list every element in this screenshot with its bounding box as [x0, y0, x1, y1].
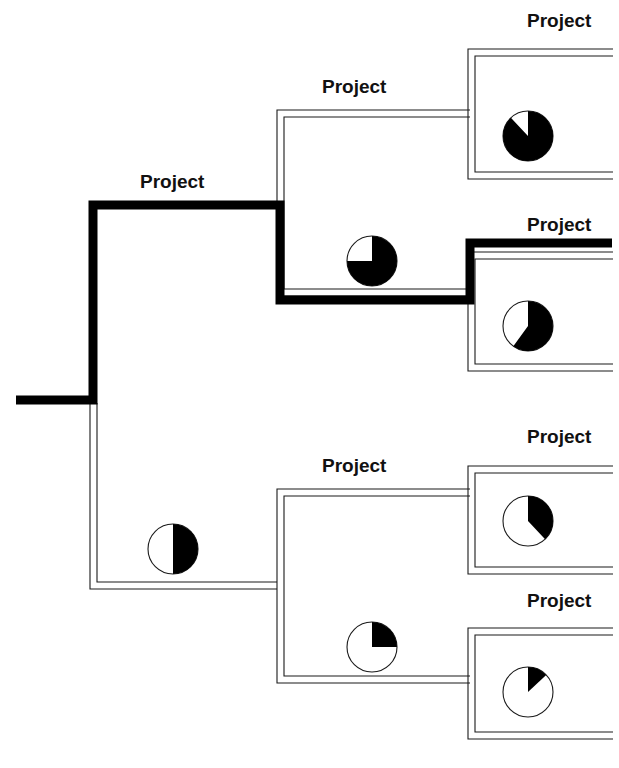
pie-upper-leaf-a[interactable] — [503, 111, 553, 161]
label-lower-branch-project: Project — [322, 455, 387, 476]
bracket-diagram-canvas: Project Project Project Project Project … — [0, 0, 619, 768]
label-upper-leaf-b-project: Project — [527, 214, 592, 235]
pie-lower-leaf-b[interactable] — [503, 667, 553, 717]
pie-root-wedge — [173, 524, 198, 574]
project-hierarchy-diagram: Project Project Project Project Project … — [0, 0, 619, 768]
pie-lower-leaf-a[interactable] — [503, 496, 553, 546]
label-root-project: Project — [140, 171, 205, 192]
pie-lower-branch-wedge — [372, 622, 397, 647]
label-lower-leaf-a-project: Project — [527, 426, 592, 447]
pie-upper-leaf-a-wedge — [503, 111, 553, 161]
label-upper-branch-project: Project — [322, 76, 387, 97]
pie-root[interactable] — [148, 524, 198, 574]
pie-lower-branch[interactable] — [347, 622, 397, 672]
pie-upper-leaf-b[interactable] — [503, 301, 553, 351]
pie-upper-branch[interactable] — [347, 236, 397, 286]
label-lower-leaf-b-project: Project — [527, 590, 592, 611]
label-upper-leaf-a-project: Project — [527, 10, 592, 31]
